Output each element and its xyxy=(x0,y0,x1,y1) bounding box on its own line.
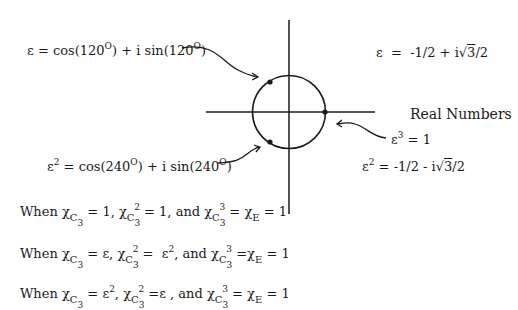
subscript-c: C xyxy=(125,254,133,265)
label-eps2-polar: ε2 = cos(240O) + i sin(240O) xyxy=(47,158,232,173)
subscript-3: 3 xyxy=(77,300,83,310)
degree-mark: O xyxy=(194,41,201,51)
subscript-3: 3 xyxy=(77,218,83,228)
eps2-rect-tail: /2 xyxy=(452,159,465,174)
chi-symbol: χ xyxy=(62,204,70,219)
sqrt-sign: √ xyxy=(436,159,444,174)
row-comma: , xyxy=(115,286,123,301)
chi-symbol: χ xyxy=(211,246,219,261)
chi-symbol: χ xyxy=(247,286,255,301)
eps-rect-tail: /2 xyxy=(475,45,488,60)
root-point-one xyxy=(322,109,327,114)
subscript-c: C xyxy=(212,212,220,223)
subscript-3: 3 xyxy=(134,218,140,228)
eps-rect-value: = -1/2 + i xyxy=(383,45,459,60)
label-eps-polar: ε = cos(120O) + i sin(120O) xyxy=(27,42,206,57)
eps-polar-part2: ) + i sin(120 xyxy=(112,43,194,58)
subscript-3: 3 xyxy=(133,260,139,270)
chi-symbol: χ xyxy=(204,204,212,219)
character-row-3: When χC3 = ε2, χC32 =ε , and χC33 = χE =… xyxy=(20,285,290,300)
label-real-numbers: Real Numbers xyxy=(410,107,512,121)
row-when: When xyxy=(20,286,62,301)
eps2-polar-end: ) xyxy=(227,159,232,174)
degree-mark: O xyxy=(219,157,226,167)
degree-mark: O xyxy=(105,41,112,51)
root-point-eps xyxy=(267,79,272,84)
subscript-e: E xyxy=(252,212,259,223)
roots-of-unity-diagram: ε = cos(120O) + i sin(120O) ε = -1/2 + i… xyxy=(0,0,518,310)
character-row-1: When χC3 = 1, χC32 = 1, and χC33 = χE = … xyxy=(20,203,287,218)
root-point-eps-squared xyxy=(267,139,272,144)
eps2-polar-part1: = cos(240 xyxy=(59,159,130,174)
row-value-1: = 1, xyxy=(83,204,119,219)
row-end: = 1 xyxy=(262,246,289,261)
subscript-3: 3 xyxy=(227,260,233,270)
eps-symbol: ε xyxy=(47,159,54,174)
eps2-rect-value: = -1/2 - i xyxy=(374,159,435,174)
eps-polar-end: ) xyxy=(201,43,206,58)
row-when: When xyxy=(20,246,62,261)
row-end: = 1 xyxy=(260,204,287,219)
eps-symbol: ε xyxy=(362,159,369,174)
label-eps2-rect: ε2 = -1/2 - i√3/2 xyxy=(362,158,465,173)
chi-symbol: χ xyxy=(62,246,70,261)
row-value-3: = xyxy=(225,204,244,219)
subscript-c: C xyxy=(131,294,139,305)
eps-symbol: ε xyxy=(391,132,398,147)
subscript-3: 3 xyxy=(220,218,226,228)
row-value-1: = ε, xyxy=(83,246,117,261)
subscript-3: 3 xyxy=(139,300,145,310)
label-eps-cubed: ε3 = 1 xyxy=(391,131,431,146)
chi-symbol: χ xyxy=(119,204,127,219)
row-value-1: = ε xyxy=(83,286,109,301)
subscript-e: E xyxy=(255,254,262,265)
eps-symbol: ε xyxy=(376,45,383,60)
chi-symbol: χ xyxy=(123,286,131,301)
eps-symbol: ε xyxy=(27,43,34,58)
row-when: When xyxy=(20,204,62,219)
chi-symbol: χ xyxy=(62,286,70,301)
eps2-polar-part2: ) + i sin(240 xyxy=(138,159,220,174)
sqrt-sign: √ xyxy=(459,45,467,60)
row-value-2: = ε xyxy=(138,246,168,261)
subscript-3: 3 xyxy=(222,300,228,310)
row-value-3: = xyxy=(232,246,247,261)
chi-symbol: χ xyxy=(207,286,215,301)
eps-cubed-value: = 1 xyxy=(403,132,430,147)
degree-mark: O xyxy=(130,157,137,167)
eps-polar-part1: = cos(120 xyxy=(34,43,105,58)
row-end: = 1 xyxy=(262,286,289,301)
label-eps-rect: ε = -1/2 + i√3/2 xyxy=(376,46,488,59)
row-value-2: =ε , and xyxy=(144,286,207,301)
character-row-2: When χC3 = ε, χC32 = ε2, and χC33 =χE = … xyxy=(20,245,290,260)
row-value-3: = xyxy=(228,286,247,301)
subscript-c: C xyxy=(219,254,227,265)
subscript-3: 3 xyxy=(77,260,83,270)
row-and: , and xyxy=(174,246,211,261)
chi-symbol: χ xyxy=(247,246,255,261)
subscript-e: E xyxy=(255,294,262,305)
row-value-2: = 1, and xyxy=(140,204,204,219)
arrow-one xyxy=(338,123,386,138)
